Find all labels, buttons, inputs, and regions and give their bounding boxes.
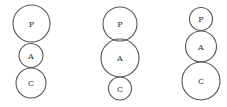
label-p: P [29,20,35,29]
figure-1: P A C [13,5,50,98]
label-a: A [197,43,204,52]
label-c: C [198,77,204,86]
label-c: C [28,79,34,88]
label-p: P [198,15,204,24]
label-a: A [27,52,34,61]
label-p: P [117,20,123,29]
label-c: C [117,85,123,94]
diagram-canvas: P A C P A C P A C [0,0,227,107]
label-a: A [116,54,123,63]
figure-2: P A C [101,7,139,100]
figure-3: P A C [182,8,220,101]
